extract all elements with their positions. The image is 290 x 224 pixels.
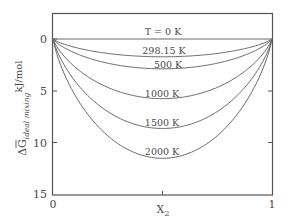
curve-label-500K: 500 K <box>154 59 183 70</box>
x-axis-title: X2 <box>157 203 170 218</box>
curve-label-298K: 298.15 K <box>142 45 186 56</box>
curve-label-1000K: 1000 K <box>145 88 180 99</box>
y-axis-title: ΔGideal mixingkJ/mol <box>13 60 31 156</box>
y-tick-label-0: 0 <box>40 33 47 46</box>
y-tick-label-10: 10 <box>33 137 47 150</box>
plot-frame <box>53 14 273 196</box>
curve-label-1500K: 1500 K <box>145 117 180 128</box>
svg-text:ΔGideal mixingkJ/mol: ΔGideal mixingkJ/mol <box>13 60 31 156</box>
y-tick-label-15: 15 <box>33 188 47 201</box>
curve-label-0K: T = 0 K <box>145 26 182 37</box>
y-tick-label-5: 5 <box>40 85 47 98</box>
curve-label-2000K: 2000 K <box>145 146 180 157</box>
x-tick-label-0: 0 <box>50 198 57 211</box>
x-tick-label-1: 1 <box>269 198 276 211</box>
mixing-gibbs-chart: 0 5 10 15 0 1 X2 ΔGideal mixingkJ/mol T … <box>0 0 290 224</box>
